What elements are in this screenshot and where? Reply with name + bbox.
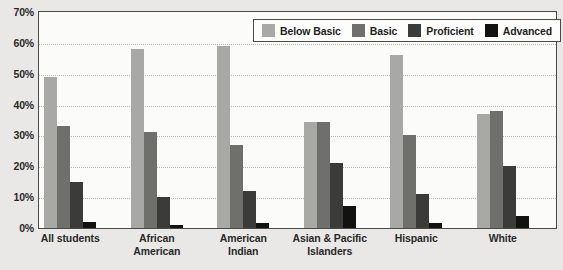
bar (44, 77, 57, 228)
legend-item[interactable]: Advanced (485, 24, 552, 37)
x-tick-label-line: Asian & Pacific (287, 232, 374, 245)
bar (490, 111, 503, 228)
bar (317, 122, 330, 228)
x-tick-label-line: American (200, 232, 287, 245)
bar-group (471, 12, 558, 228)
legend-item[interactable]: Basic (352, 24, 398, 37)
bar (243, 191, 256, 228)
legend-swatch-icon (352, 24, 365, 37)
legend-swatch-icon (485, 24, 498, 37)
bar (157, 197, 170, 228)
bar (390, 55, 403, 228)
legend-label: Advanced (503, 25, 552, 37)
bar (230, 145, 243, 228)
legend-swatch-icon (262, 24, 275, 37)
bar (477, 114, 490, 228)
bar-group (125, 12, 212, 228)
legend-item[interactable]: Proficient (408, 24, 473, 37)
bar (516, 216, 529, 228)
bar-group (38, 12, 125, 228)
y-axis: 0%10%20%30%40%50%60%70% (0, 0, 36, 270)
bar (416, 194, 429, 228)
y-tick-label: 70% (14, 6, 34, 18)
x-tick-label-line: Islanders (287, 245, 374, 258)
x-tick-label: White (460, 232, 547, 245)
bar (83, 222, 96, 228)
x-tick-label-line: Hispanic (373, 232, 460, 245)
bar (170, 225, 183, 228)
x-tick-label: Asian & PacificIslanders (287, 232, 374, 258)
bar (70, 182, 83, 228)
x-tick-label-line: American (114, 245, 201, 258)
x-tick-label-line: Indian (200, 245, 287, 258)
bar (429, 223, 442, 228)
x-axis: All studentsAfricanAmericanAmericanIndia… (38, 232, 557, 270)
bar (330, 163, 343, 228)
legend-label: Below Basic (280, 25, 341, 37)
y-tick-label: 40% (14, 99, 34, 111)
bar (503, 166, 516, 228)
y-tick-label: 30% (14, 129, 34, 141)
y-tick-label: 50% (14, 68, 34, 80)
legend-swatch-icon (408, 24, 421, 37)
grouped-bar-chart: 0%10%20%30%40%50%60%70% All studentsAfri… (0, 0, 563, 270)
x-tick-label: All students (27, 232, 114, 245)
x-tick-label: AmericanIndian (200, 232, 287, 258)
bar-group (384, 12, 471, 228)
bar (144, 132, 157, 228)
y-tick-label: 10% (14, 191, 34, 203)
y-tick-label: 60% (14, 37, 34, 49)
bar-group (211, 12, 298, 228)
x-tick-label: AfricanAmerican (114, 232, 201, 258)
bar (343, 206, 356, 228)
y-tick-label: 20% (14, 160, 34, 172)
bar (256, 223, 269, 228)
chart-legend: Below BasicBasicProficientAdvanced (253, 19, 561, 42)
legend-label: Basic (370, 25, 398, 37)
bar (57, 126, 70, 228)
x-tick-label-line: All students (27, 232, 114, 245)
bars-layer (38, 11, 557, 229)
bar (217, 46, 230, 228)
bar-group (298, 12, 385, 228)
legend-item[interactable]: Below Basic (262, 24, 341, 37)
bar (403, 135, 416, 228)
bar (131, 49, 144, 228)
x-tick-label-line: White (460, 232, 547, 245)
bar (304, 122, 317, 228)
x-tick-label: Hispanic (373, 232, 460, 245)
legend-label: Proficient (426, 25, 473, 37)
x-tick-label-line: African (114, 232, 201, 245)
